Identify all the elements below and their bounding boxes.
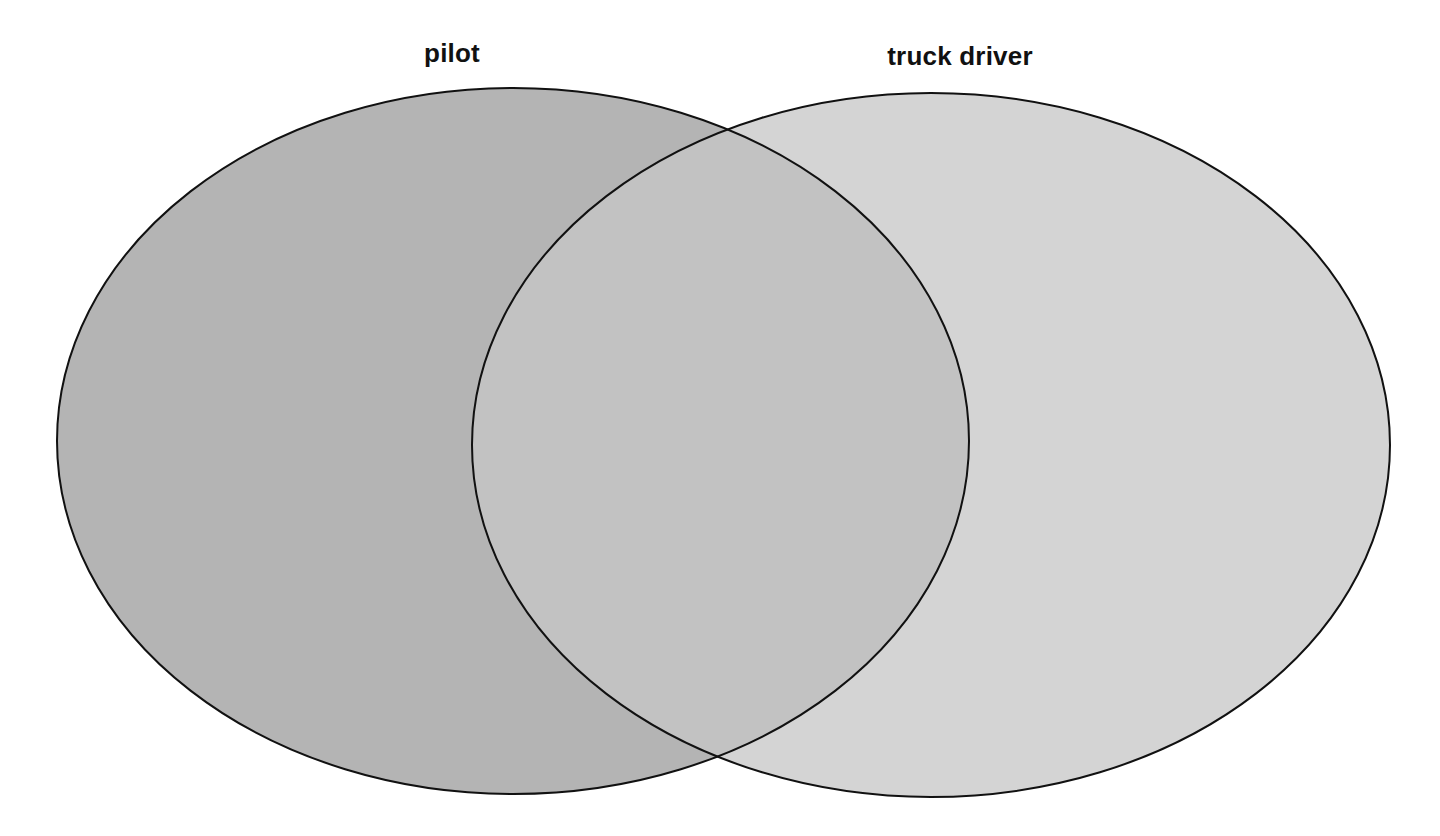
truck-driver-set-label: truck driver: [887, 41, 1032, 72]
venn-diagram: [0, 0, 1440, 836]
pilot-set-label: pilot: [424, 38, 480, 69]
